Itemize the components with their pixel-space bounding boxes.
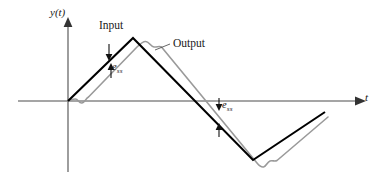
y-axis	[64, 17, 73, 172]
signal-response-figure: y(t) t Input Output ess ess	[0, 0, 381, 187]
error-subscript: ss	[227, 105, 233, 113]
error-subscript: ss	[117, 67, 123, 75]
t-axis-label: t	[365, 92, 368, 103]
input-series	[68, 38, 325, 160]
input-label: Input	[99, 20, 123, 32]
y-axis-label: y(t)	[50, 7, 65, 18]
output-label: Output	[173, 38, 205, 50]
error-label-rising: ess	[112, 62, 123, 75]
figure-canvas	[0, 0, 381, 187]
error-label-falling: ess	[222, 100, 233, 113]
